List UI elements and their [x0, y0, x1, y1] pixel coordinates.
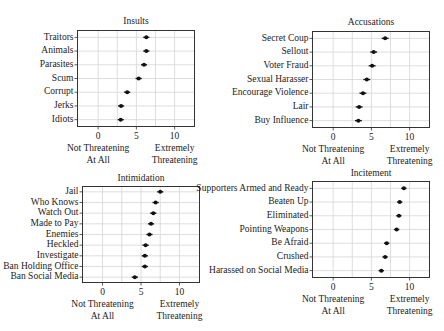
data-point — [395, 228, 399, 232]
data-point — [370, 64, 374, 68]
panel-title: Accusations — [348, 17, 395, 27]
x-tick-label: 0 — [100, 287, 105, 297]
data-point — [119, 118, 123, 122]
x-tick-label: 5 — [139, 287, 144, 297]
data-point — [144, 35, 148, 39]
category-label: Heckled — [47, 239, 79, 249]
data-point — [144, 49, 148, 53]
category-label: Watch Out — [38, 207, 79, 217]
category-label: Sexual Harasser — [247, 74, 309, 84]
category-label: Be Afraid — [271, 237, 308, 247]
data-point — [379, 269, 383, 273]
figure: InsultsTraitorsAnimalsParasitesScumCorru… — [0, 0, 444, 331]
data-point — [144, 243, 148, 247]
data-point — [361, 91, 365, 95]
data-point — [365, 78, 369, 82]
data-point — [402, 186, 406, 190]
category-label: Eliminated — [267, 210, 309, 220]
data-point — [143, 265, 147, 269]
data-point — [137, 77, 141, 81]
x-annotation-low: At All — [91, 311, 115, 321]
data-point — [372, 50, 376, 54]
x-annotation-high: Extremely — [160, 299, 200, 309]
category-label: Animals — [41, 45, 73, 55]
category-label: Ban Social Media — [10, 271, 79, 281]
panel-insults: InsultsTraitorsAnimalsParasitesScumCorru… — [40, 16, 198, 165]
x-annotation-high: Threatening — [157, 311, 203, 321]
category-label: Corrupt — [44, 86, 74, 96]
x-tick-label: 5 — [369, 282, 374, 292]
x-annotation-high: Threatening — [387, 156, 433, 166]
x-annotation-low: At All — [321, 306, 345, 316]
category-label: Idiots — [52, 114, 74, 124]
x-tick-label: 10 — [170, 131, 180, 141]
category-label: Buy Influence — [254, 115, 308, 125]
x-tick-label: 10 — [405, 132, 415, 142]
data-point — [383, 36, 387, 40]
category-label: Harassed on Social Media — [209, 265, 309, 275]
data-point — [133, 275, 137, 279]
category-label: Traitors — [44, 32, 74, 42]
panel-title: Insults — [123, 16, 149, 26]
category-label: Scum — [52, 73, 74, 83]
data-point — [383, 255, 387, 259]
data-point — [151, 211, 155, 215]
category-label: Voter Fraud — [264, 60, 309, 70]
x-tick-label: 0 — [331, 282, 336, 292]
data-point — [398, 200, 402, 204]
x-tick-label: 0 — [96, 131, 101, 141]
panel-accusations: AccusationsSecret CoupSelloutVoter Fraud… — [232, 17, 433, 166]
x-annotation-low: Not Threatening — [67, 143, 130, 153]
x-tick-label: 5 — [369, 132, 374, 142]
data-point — [357, 105, 361, 109]
category-label: Made to Pay — [30, 218, 78, 228]
category-label: Encourage Violence — [232, 87, 309, 97]
data-point — [385, 241, 389, 245]
x-annotation-low: Not Threatening — [71, 299, 134, 309]
x-tick-label: 10 — [175, 287, 185, 297]
data-point — [119, 104, 123, 108]
category-label: Lair — [293, 101, 310, 111]
category-label: Pointing Weapons — [240, 224, 309, 234]
data-point — [142, 63, 146, 67]
data-point — [125, 90, 129, 94]
category-label: Jail — [65, 186, 79, 196]
panel-title: Incitement — [351, 168, 392, 178]
x-annotation-low: Not Threatening — [302, 294, 365, 304]
data-point — [147, 233, 151, 237]
x-annotation-low: At All — [321, 156, 345, 166]
category-label: Secret Coup — [262, 33, 309, 43]
data-point — [397, 214, 401, 218]
data-point — [154, 201, 158, 205]
x-annotation-high: Extremely — [390, 294, 430, 304]
panel-incitement: IncitementSupporters Armed and ReadyBeat… — [196, 168, 432, 316]
category-label: Who Knows — [31, 197, 79, 207]
category-label: Investigate — [37, 250, 79, 260]
category-label: Sellout — [282, 46, 309, 56]
category-label: Crushed — [277, 251, 309, 261]
x-annotation-low: Not Threatening — [302, 144, 365, 154]
x-tick-label: 5 — [134, 131, 139, 141]
category-label: Parasites — [40, 59, 74, 69]
category-label: Ban Holding Office — [3, 261, 78, 271]
x-annotation-low: At All — [86, 155, 110, 165]
x-annotation-high: Extremely — [155, 143, 195, 153]
panel-intimidation: IntimidationJailWho KnowsWatch OutMade t… — [3, 173, 202, 321]
x-tick-label: 0 — [331, 132, 336, 142]
x-annotation-high: Threatening — [152, 155, 198, 165]
x-tick-label: 10 — [405, 282, 415, 292]
data-point — [158, 190, 162, 194]
panel-title: Intimidation — [118, 173, 165, 183]
data-point — [356, 119, 360, 123]
data-point — [143, 254, 147, 258]
x-annotation-high: Threatening — [387, 306, 433, 316]
data-point — [149, 222, 153, 226]
x-annotation-high: Extremely — [390, 144, 430, 154]
category-label: Jerks — [54, 100, 74, 110]
category-label: Enemies — [46, 229, 79, 239]
category-label: Beaten Up — [268, 196, 309, 206]
category-label: Supporters Armed and Ready — [196, 183, 308, 193]
